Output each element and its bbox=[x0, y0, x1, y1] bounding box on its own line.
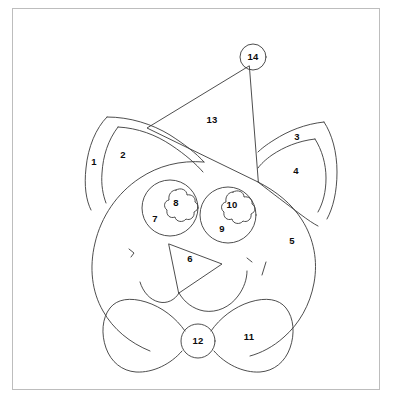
right-eye-shape bbox=[200, 187, 256, 243]
region-label-3: 3 bbox=[294, 132, 299, 142]
cat-nose-shape bbox=[169, 244, 222, 293]
party-hat-shape bbox=[147, 66, 258, 182]
left-eye-shape bbox=[142, 180, 198, 236]
left-pupil-shape bbox=[165, 189, 198, 222]
region-label-14: 14 bbox=[248, 52, 259, 62]
region-label-7: 7 bbox=[152, 214, 157, 224]
region-label-1: 1 bbox=[91, 157, 96, 167]
region-label-11: 11 bbox=[244, 332, 254, 342]
cat-face-outline bbox=[92, 162, 316, 356]
cat-mouth bbox=[140, 271, 247, 311]
region-label-9: 9 bbox=[219, 224, 224, 234]
region-label-10: 10 bbox=[227, 200, 238, 210]
region-label-8: 8 bbox=[173, 198, 178, 208]
region-label-12: 12 bbox=[193, 336, 204, 346]
region-label-13: 13 bbox=[207, 115, 218, 125]
region-label-2: 2 bbox=[120, 150, 125, 160]
region-label-5: 5 bbox=[289, 236, 294, 246]
coloring-page-canvas: 1 2 3 4 5 6 7 8 9 10 11 12 13 14 bbox=[0, 0, 398, 412]
line-art-artboard bbox=[0, 0, 398, 412]
region-label-6: 6 bbox=[187, 254, 192, 264]
region-label-4: 4 bbox=[293, 166, 298, 176]
cat-whiskers bbox=[129, 249, 266, 275]
